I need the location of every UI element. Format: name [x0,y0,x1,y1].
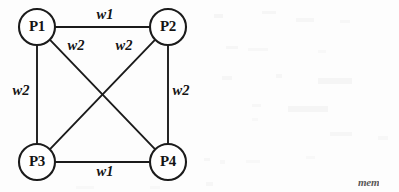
margin-text-fragment: mem [358,176,379,188]
node-p1[interactable]: P1 [19,9,55,45]
edge-label-p2-p3: w2 [116,37,133,53]
node-p4-label: P4 [160,153,177,169]
node-p3-label: P3 [29,153,45,169]
edge-label-p3-p4: w1 [97,163,114,179]
edge-label-p2-p4: w2 [173,82,190,98]
node-p2-label: P2 [160,18,176,34]
node-p2[interactable]: P2 [150,9,186,45]
node-p4[interactable]: P4 [150,144,186,180]
edge-label-p1-p3: w2 [13,82,30,98]
node-p3[interactable]: P3 [19,144,55,180]
figure-root: P1 P2 P3 P4 w1 w1 w2 w2 w2 w2 [0,0,399,192]
edge-label-p1-p4: w2 [68,37,85,53]
edge-group [37,27,168,162]
node-p1-label: P1 [29,18,45,34]
graph-canvas: P1 P2 P3 P4 w1 w1 w2 w2 w2 w2 [0,0,399,192]
edge-label-p1-p2: w1 [97,6,114,22]
